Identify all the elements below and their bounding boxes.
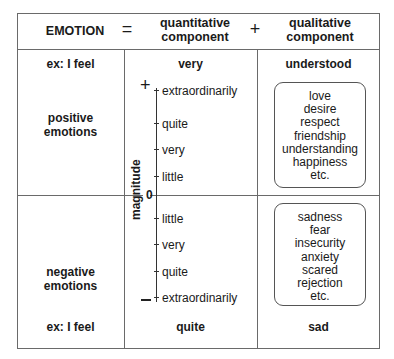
negative-quality: anxiety — [275, 251, 365, 264]
bottom-quantitative-example: quite — [124, 320, 257, 334]
header-divider — [17, 49, 380, 50]
positive-quality: respect — [275, 116, 365, 129]
plus-sign: + — [245, 22, 265, 36]
zero-divider-left — [17, 195, 143, 196]
scale-pos-little: little — [162, 170, 183, 184]
header-emotion: EMOTION — [35, 24, 115, 38]
positive-quality: friendship — [275, 130, 365, 143]
positive-quality: etc. — [275, 169, 365, 182]
scale-neg-very: very — [162, 238, 185, 252]
column-divider-1 — [124, 49, 125, 349]
tick-neg-extraordinarily — [154, 297, 159, 298]
negative-qualities-box: sadness fear insecurity anxiety scared r… — [274, 203, 366, 306]
tick-neg-very — [154, 244, 159, 245]
positive-label-line2: emotions — [17, 125, 124, 139]
negative-label-line2: emotions — [17, 279, 124, 293]
equals-sign: = — [117, 22, 137, 36]
positive-label-line1: positive — [17, 111, 124, 125]
negative-label-line1: negative — [17, 265, 124, 279]
scale-pos-quite: quite — [162, 117, 188, 131]
scale-neg-quite: quite — [162, 265, 188, 279]
header-quantitative-line1: quantitative — [145, 16, 245, 30]
tick-pos-quite — [154, 123, 159, 124]
zero-divider-right — [150, 195, 380, 196]
header-quantitative: quantitative component — [145, 16, 245, 44]
tick-pos-little — [154, 176, 159, 177]
tick-neg-quite — [154, 271, 159, 272]
scale-pos-extraordinarily: extraordinarily — [162, 84, 237, 98]
magnitude-axis-label: magnitude — [129, 160, 143, 220]
positive-emotions-label: positive emotions — [17, 111, 124, 139]
zero-label: 0 — [146, 188, 153, 202]
negative-quality: insecurity — [275, 237, 365, 250]
tick-pos-very — [154, 149, 159, 150]
plus-end-sign: + — [140, 76, 151, 94]
negative-emotions-label: negative emotions — [17, 265, 124, 293]
magnitude-axis-line — [156, 88, 157, 302]
positive-qualities-box: love desire respect friendship understan… — [274, 82, 366, 188]
column-divider-2 — [257, 49, 258, 349]
top-quantitative-example: very — [124, 57, 257, 71]
header-qualitative-line2: component — [270, 30, 370, 44]
scale-neg-little: little — [162, 212, 183, 226]
scale-pos-very: very — [162, 143, 185, 157]
top-qualitative-example: understood — [257, 57, 380, 71]
header-quantitative-line2: component — [145, 30, 245, 44]
scale-neg-extraordinarily: extraordinarily — [162, 291, 237, 305]
header-qualitative: qualitative component — [270, 16, 370, 44]
tick-neg-little — [154, 218, 159, 219]
header-qualitative-line1: qualitative — [270, 16, 370, 30]
minus-end-sign — [141, 299, 151, 301]
tick-pos-extraordinarily — [154, 90, 159, 91]
bottom-qualitative-example: sad — [257, 320, 380, 334]
top-example-label: ex: I feel — [17, 57, 124, 71]
negative-quality: etc. — [275, 290, 365, 303]
bottom-example-label: ex: I feel — [17, 320, 124, 334]
